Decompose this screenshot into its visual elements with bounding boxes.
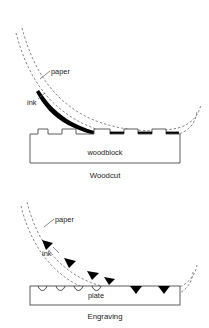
ink-wedge-3: [87, 271, 99, 280]
woodblock-body: [30, 129, 180, 163]
paper-leader-line: [40, 71, 50, 79]
engraving-panel: paper ink plate Engraving: [0, 185, 209, 328]
ink-on-relief-3: [166, 132, 179, 134]
ink-label-engraving: ink: [42, 249, 52, 258]
plate-label: plate: [88, 291, 104, 300]
ink-leader-line-engraving: [53, 247, 59, 253]
woodblock-label: woodblock: [87, 148, 123, 157]
printing-process-diagram: paper ink woodblock Woodcut paper: [0, 0, 209, 328]
ink-on-relief-2: [138, 132, 152, 134]
engraving-caption: Engraving: [87, 312, 122, 321]
ink-label: ink: [27, 98, 37, 107]
ink-on-relief-1: [110, 132, 124, 134]
woodcut-caption: Woodcut: [90, 171, 121, 180]
paper-top-surface-curve: [22, 28, 201, 131]
paper-leader-line-engraving: [44, 219, 54, 227]
paper-label-engraving: paper: [55, 215, 74, 224]
ink-wedge-4: [104, 277, 115, 285]
paper-label: paper: [51, 67, 70, 76]
woodcut-panel: paper ink woodblock Woodcut: [0, 0, 209, 185]
paper-bottom-surface-curve: [16, 33, 197, 138]
engraving-plate-body: [30, 286, 180, 305]
ink-wedge-2: [64, 258, 76, 268]
